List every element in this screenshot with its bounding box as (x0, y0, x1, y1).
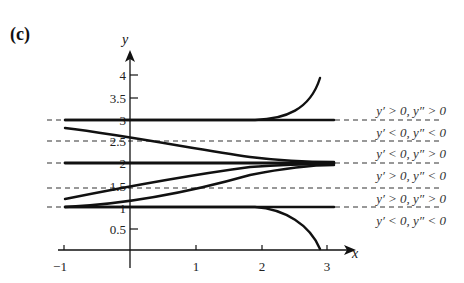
region-label-2-to-2-5: y′ < 0, y″ > 0 (374, 146, 446, 161)
curve-from-1-0 (65, 165, 334, 207)
region-label-below-1: y′ < 0, y″ < 0 (374, 213, 446, 228)
y-tick-labels: 0.5 1 1.5 2 2.5 3 3.5 4 (110, 68, 127, 237)
region-label-above-3: y′ > 0, y″ > 0 (374, 103, 446, 118)
region-label-1-to-1-42: y′ > 0, y″ > 0 (374, 191, 446, 206)
x-tick-labels: −1 1 2 3 (53, 259, 330, 274)
x-axis-label: x (351, 246, 359, 261)
curve-below-1 (65, 207, 320, 249)
solution-curves (65, 78, 334, 249)
svg-text:3: 3 (324, 259, 331, 274)
svg-text:3.5: 3.5 (110, 91, 126, 106)
svg-text:2: 2 (259, 259, 266, 274)
curve-above-3 (65, 78, 320, 120)
svg-text:1: 1 (193, 259, 200, 274)
y-axis-label: y (120, 32, 129, 47)
region-labels: y′ > 0, y″ > 0 y′ < 0, y″ < 0 y′ < 0, y″… (374, 103, 446, 228)
svg-text:−1: −1 (53, 259, 67, 274)
curve-from-1-25 (65, 164, 334, 199)
curve-from-2-8 (65, 128, 334, 162)
region-label-1-42-to-2: y′ > 0, y″ < 0 (374, 168, 446, 183)
svg-text:0.5: 0.5 (110, 222, 126, 237)
x-ticks (64, 245, 327, 250)
region-label-2-5-to-3: y′ < 0, y″ < 0 (374, 125, 446, 140)
panel-label: (c) (10, 24, 30, 45)
solution-curves-diagram: (c) y x −1 1 2 3 0.5 1 1.5 2 (0, 0, 464, 283)
svg-text:4: 4 (120, 68, 127, 83)
